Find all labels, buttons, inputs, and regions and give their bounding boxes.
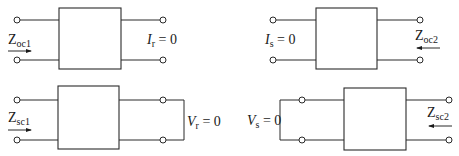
short-circuit-wire — [166, 100, 184, 140]
two-port-diagram: Zoc1 Ir = 0 Is = 0 Zoc2 — [0, 0, 459, 156]
terminal-icon — [270, 17, 276, 23]
impedance-label: Zsc2 — [427, 105, 449, 122]
network-box — [316, 8, 377, 69]
panel-sc2: Vs = 0 Zsc2 — [247, 88, 452, 150]
terminal-icon — [270, 57, 276, 63]
terminal-icon — [14, 17, 20, 23]
impedance-label: Zoc1 — [8, 32, 31, 49]
short-circuit-wire — [280, 100, 299, 140]
condition-label: Ir = 0 — [146, 32, 177, 49]
terminal-icon — [14, 97, 20, 103]
terminal-icon — [14, 57, 20, 63]
terminal-icon — [417, 17, 423, 23]
impedance-label: Zoc2 — [415, 28, 438, 45]
terminal-icon — [299, 137, 305, 143]
network-box — [59, 8, 121, 69]
condition-label: Vr = 0 — [187, 114, 221, 131]
condition-label: Vs = 0 — [247, 113, 281, 130]
terminal-icon — [299, 97, 305, 103]
network-box — [58, 86, 119, 149]
terminal-icon — [160, 137, 166, 143]
terminal-icon — [446, 97, 452, 103]
panel-sc1: Zsc1 Vr = 0 — [8, 86, 221, 149]
panel-oc1: Zoc1 Ir = 0 — [8, 8, 177, 69]
terminal-icon — [446, 137, 452, 143]
panel-oc2: Is = 0 Zoc2 — [264, 8, 440, 69]
network-box — [344, 88, 406, 150]
terminal-icon — [14, 137, 20, 143]
terminal-icon — [417, 57, 423, 63]
impedance-label: Zsc1 — [8, 110, 30, 127]
terminal-icon — [160, 57, 166, 63]
terminal-icon — [160, 17, 166, 23]
terminal-icon — [160, 97, 166, 103]
condition-label: Is = 0 — [264, 32, 295, 49]
